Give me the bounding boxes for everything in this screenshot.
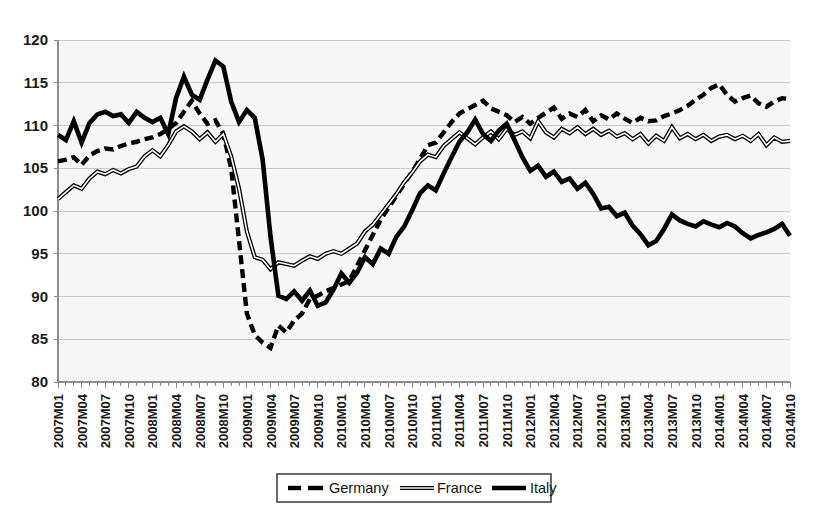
y-tick-label: 80: [31, 373, 48, 390]
y-tick-label: 105: [23, 159, 48, 176]
x-tick-label: 2013M04: [641, 393, 656, 448]
x-tick-label: 2013M07: [665, 394, 680, 448]
y-tick-label: 120: [23, 31, 48, 48]
y-tick-label: 95: [31, 245, 48, 262]
x-tick-label: 2008M04: [169, 393, 184, 448]
x-tick-label: 2007M04: [75, 393, 90, 448]
x-tick-label: 2011M01: [429, 394, 444, 448]
x-tick-label: 2008M10: [216, 394, 231, 448]
x-tick-label: 2011M10: [500, 394, 515, 448]
x-tick-label: 2014M10: [783, 394, 798, 448]
chart-legend: Germany France Italy: [277, 474, 557, 502]
y-tick-label: 115: [24, 74, 48, 91]
x-tick-label: 2012M10: [594, 394, 609, 448]
y-tick-label: 110: [24, 117, 48, 134]
x-tick-label: 2007M10: [122, 394, 137, 448]
x-tick-label: 2013M10: [689, 394, 704, 448]
x-tick-label: 2008M07: [193, 394, 208, 448]
y-tick-label: 90: [31, 288, 48, 305]
x-tick-label: 2009M04: [264, 393, 279, 448]
x-tick-label: 2012M07: [570, 394, 585, 448]
x-tick-label: 2014M01: [712, 394, 727, 448]
x-tick-label: 2010M07: [382, 394, 397, 448]
x-tick-label: 2010M04: [358, 393, 373, 448]
x-tick-label: 2014M04: [736, 393, 751, 448]
x-tick-label: 2010M01: [334, 394, 349, 448]
legend-label-france: France: [437, 480, 482, 496]
x-tick-label: 2010M10: [405, 394, 420, 448]
x-tick-label: 2009M10: [311, 394, 326, 448]
chart-canvas: 80859095100105110115120 2007M012007M0420…: [0, 0, 820, 517]
y-tick-label: 100: [23, 202, 48, 219]
x-tick-label: 2007M01: [51, 394, 66, 448]
x-tick-label: 2012M04: [547, 393, 562, 448]
x-tick-label: 2007M07: [98, 394, 113, 448]
x-tick-label: 2011M07: [476, 394, 491, 448]
legend-label-germany: Germany: [329, 480, 389, 496]
x-tick-label: 2011M04: [452, 393, 467, 447]
line-chart-figure: 80859095100105110115120 2007M012007M0420…: [0, 0, 820, 517]
x-tick-label: 2009M01: [240, 394, 255, 448]
x-tick-label: 2008M01: [145, 394, 160, 448]
y-tick-label: 85: [31, 330, 48, 347]
legend-label-italy: Italy: [530, 480, 557, 496]
x-tick-label: 2009M07: [287, 394, 302, 448]
x-tick-label: 2012M01: [523, 394, 538, 448]
x-tick-label: 2014M07: [759, 394, 774, 448]
x-tick-label: 2013M01: [618, 394, 633, 448]
